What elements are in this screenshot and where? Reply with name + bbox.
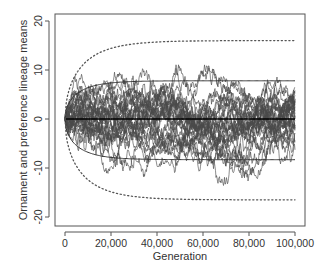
x-axis: 020,00040,00060,00080,000100,000 [62,232,314,249]
y-tick-label: 0 [32,116,44,122]
random-walk-traces [65,65,295,186]
x-axis-title: Generation [153,250,207,262]
x-tick-label: 100,000 [276,237,314,249]
y-tick-label: 20 [32,15,44,27]
y-axis: -20-1001020 [32,15,49,225]
x-tick-label: 80,000 [233,237,265,249]
chart: 020,00040,00060,00080,000100,000 -20-100… [0,0,326,273]
x-tick-label: 0 [62,237,68,249]
y-axis-title: Ornament and preference lineage means [17,19,29,220]
y-tick-label: 10 [32,64,44,76]
x-tick-label: 60,000 [187,237,219,249]
x-tick-label: 40,000 [141,237,173,249]
x-tick-label: 20,000 [95,237,127,249]
y-tick-label: -20 [32,209,44,224]
y-tick-label: -10 [32,160,44,175]
